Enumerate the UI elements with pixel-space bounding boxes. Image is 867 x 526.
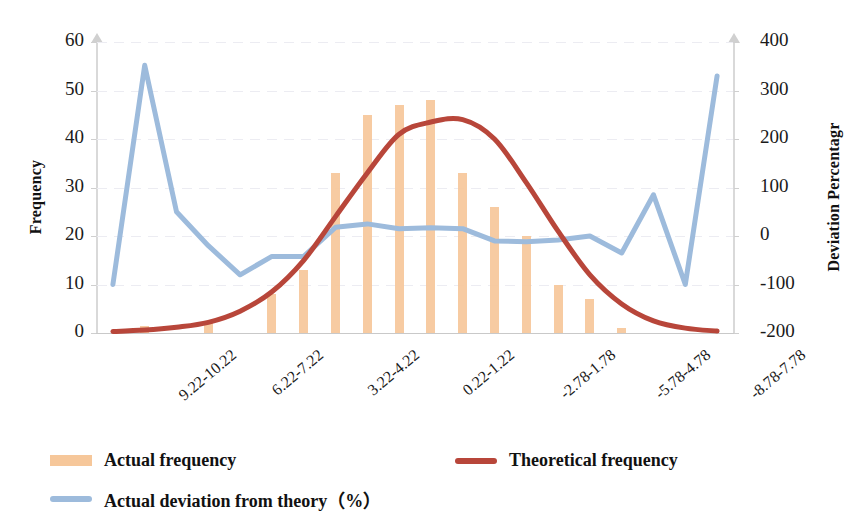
legend-swatch-line-theory-icon bbox=[455, 458, 497, 464]
legend-label-actual-deviation: Actual deviation from theory（%） bbox=[104, 486, 381, 512]
axis-tick-mark bbox=[91, 236, 96, 237]
axis-tick-mark bbox=[734, 139, 739, 140]
legend-swatch-bar-icon bbox=[50, 455, 92, 466]
x-axis-tick-label: -2.78-1.78 bbox=[556, 346, 619, 403]
axis-tick-mark bbox=[734, 91, 739, 92]
line-actual-deviation bbox=[113, 65, 717, 284]
x-axis-tick-label: -8.78-7.78 bbox=[747, 346, 810, 403]
axis-tick-mark bbox=[91, 285, 96, 286]
axis-tick-mark bbox=[734, 188, 739, 189]
x-axis-tick-labels: 9.22-10.226.22-7.223.22-4.220.22-1.22-2.… bbox=[0, 338, 867, 438]
line-series-layer bbox=[97, 42, 733, 333]
legend: Actual frequency Theoretical frequency A… bbox=[0, 448, 867, 518]
x-axis-tick-label: 9.22-10.22 bbox=[175, 346, 240, 404]
tick-label: 20 bbox=[34, 223, 84, 245]
axis-tick-mark bbox=[734, 333, 739, 334]
chart-container: Frequency Deviation Percentagr 605040302… bbox=[0, 0, 867, 526]
line-theoretical-frequency bbox=[113, 118, 717, 331]
axis-tick-mark bbox=[734, 285, 739, 286]
legend-label-actual-frequency: Actual frequency bbox=[104, 450, 236, 471]
axis-tick-mark bbox=[734, 42, 739, 43]
tick-label: 0 bbox=[760, 223, 820, 245]
tick-label: 30 bbox=[34, 175, 84, 197]
legend-label-theoretical-frequency: Theoretical frequency bbox=[509, 450, 678, 471]
legend-item-actual-deviation[interactable]: Actual deviation from theory（%） bbox=[50, 486, 381, 512]
x-axis-tick-label: -5.78-4.78 bbox=[651, 346, 714, 403]
x-axis-tick-label: 3.22-4.22 bbox=[364, 346, 423, 399]
y-axis-right-title: Deviation Percentagr bbox=[825, 77, 843, 317]
plot-area bbox=[97, 42, 733, 333]
x-axis-tick-label: 6.22-7.22 bbox=[269, 346, 328, 399]
tick-label: 100 bbox=[760, 175, 820, 197]
axis-tick-mark bbox=[91, 139, 96, 140]
axis-tick-mark bbox=[91, 188, 96, 189]
legend-swatch-line-deviation-icon bbox=[50, 496, 92, 502]
axis-tick-mark bbox=[734, 236, 739, 237]
tick-label: 60 bbox=[34, 29, 84, 51]
axis-tick-mark bbox=[91, 91, 96, 92]
tick-label: 400 bbox=[760, 29, 820, 51]
x-axis-line bbox=[96, 333, 736, 334]
tick-label: -100 bbox=[760, 272, 820, 294]
legend-item-theoretical-frequency[interactable]: Theoretical frequency bbox=[455, 450, 678, 471]
tick-label: 50 bbox=[34, 78, 84, 100]
tick-label: 40 bbox=[34, 126, 84, 148]
axis-tick-mark bbox=[91, 42, 96, 43]
tick-label: 200 bbox=[760, 126, 820, 148]
tick-label: 10 bbox=[34, 272, 84, 294]
legend-item-actual-frequency[interactable]: Actual frequency bbox=[50, 450, 236, 471]
x-axis-tick-label: 0.22-1.22 bbox=[459, 346, 518, 399]
tick-label: 300 bbox=[760, 78, 820, 100]
axis-tick-mark bbox=[91, 333, 96, 334]
